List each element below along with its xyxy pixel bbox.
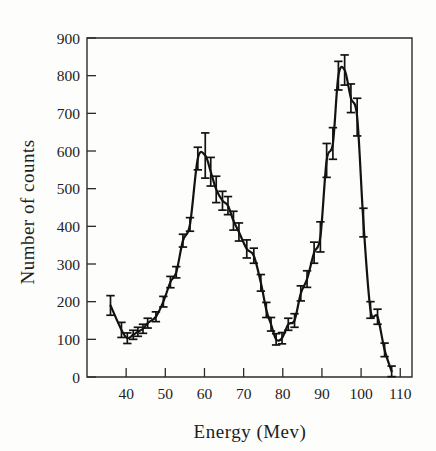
x-tick-label: 90 <box>314 385 330 402</box>
x-axis-ticks <box>126 368 400 377</box>
x-tick-label: 40 <box>118 385 134 402</box>
x-tick-label: 80 <box>275 385 291 402</box>
y-tick-label: 700 <box>57 105 81 122</box>
x-tick-label: 70 <box>236 385 252 402</box>
x-axis-tick-labels: 405060708090100110 <box>118 385 411 402</box>
x-tick-label: 100 <box>349 385 373 402</box>
y-tick-label: 600 <box>57 143 81 160</box>
y-tick-label: 300 <box>57 256 81 273</box>
x-axis-title: Energy (Mev) <box>194 421 307 443</box>
y-tick-label: 900 <box>57 30 81 47</box>
y-axis-ticks <box>87 38 96 377</box>
x-tick-label: 110 <box>389 385 412 402</box>
error-bars <box>106 55 396 377</box>
y-tick-label: 100 <box>57 331 81 348</box>
y-tick-label: 200 <box>57 293 81 310</box>
energy-spectrum-chart: 405060708090100110 010020030040050060070… <box>0 0 436 451</box>
y-tick-label: 400 <box>57 218 81 235</box>
figure-container: 405060708090100110 010020030040050060070… <box>0 0 436 451</box>
y-tick-label: 0 <box>72 369 80 386</box>
x-tick-label: 60 <box>197 385 213 402</box>
y-tick-label: 500 <box>57 180 81 197</box>
y-axis-tick-labels: 0100200300400500600700800900 <box>57 30 81 386</box>
y-axis-title: Number of counts <box>17 139 38 284</box>
x-tick-label: 50 <box>158 385 174 402</box>
y-tick-label: 800 <box>57 67 81 84</box>
